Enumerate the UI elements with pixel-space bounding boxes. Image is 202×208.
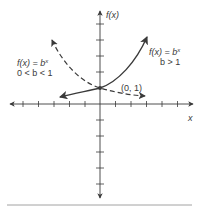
point-0-1 [98,86,102,90]
decay-equation: f(x) = b [17,58,45,68]
decay-curve-label: f(x) = bx [17,56,48,68]
y-axis-label: f(x) [106,10,119,20]
growth-equation: f(x) = b [149,47,177,57]
growth-curve-label: f(x) = bx [149,45,180,57]
y-axis [96,11,104,198]
point-label: (0, 1) [121,83,142,93]
growth-condition: b > 1 [160,57,180,67]
exponential-function-diagram: f(x) x f(x) = bx 0 < b < 1 f(x) = bx b >… [0,0,202,208]
x-axis-label: x [188,113,193,123]
x-axis [10,101,193,107]
graph-canvas [0,0,202,208]
decay-condition: 0 < b < 1 [17,68,53,78]
